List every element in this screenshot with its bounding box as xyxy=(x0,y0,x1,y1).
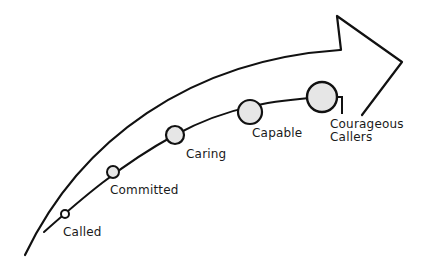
arrow-head xyxy=(337,16,402,115)
node-capable xyxy=(238,100,262,124)
node-called xyxy=(61,210,69,218)
growth-arrow-diagram: Called Committed Caring Capable Courageo… xyxy=(0,0,422,270)
label-committed: Committed xyxy=(110,184,179,197)
node-caring xyxy=(166,126,184,144)
label-caring: Caring xyxy=(186,148,226,161)
label-capable: Capable xyxy=(252,127,302,140)
node-courageous-callers xyxy=(307,82,337,112)
node-committed xyxy=(107,166,119,178)
label-called: Called xyxy=(63,226,102,239)
label-callers: Callers xyxy=(330,131,372,144)
